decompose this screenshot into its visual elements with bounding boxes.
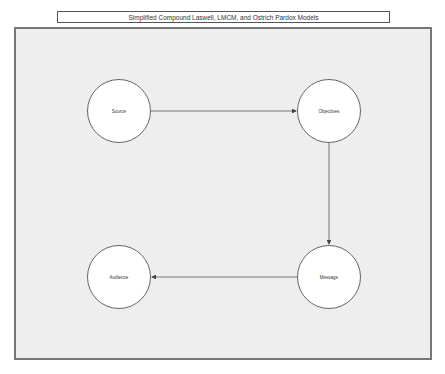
node-source: Source [87,79,151,143]
edges-layer [0,0,445,374]
node-message: Message [297,245,361,309]
node-label: Audience [110,275,129,280]
node-label: Message [320,275,338,280]
node-audience: Audience [87,245,151,309]
node-label: Objectives [318,109,339,114]
node-label: Source [112,109,126,114]
node-objectives: Objectives [297,79,361,143]
